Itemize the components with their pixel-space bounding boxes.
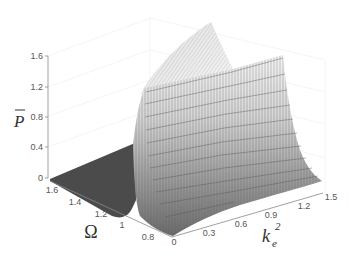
k-tick-0.6: 0.6	[235, 219, 248, 229]
k-axis-label: k e 2	[262, 220, 281, 249]
omega-tick-1.2: 1.2	[95, 209, 108, 219]
k-tick-1.5: 1.5	[325, 192, 338, 202]
z-tick-0.4: 0.4	[30, 142, 43, 152]
k-tick-1.2: 1.2	[298, 201, 311, 211]
k-tick-0.3: 0.3	[203, 228, 216, 238]
svg-text:P: P	[13, 112, 24, 131]
omega-axis-label: Ω	[84, 222, 97, 242]
z-tick-0.8: 0.8	[30, 112, 43, 122]
omega-tick-1.4: 1.4	[69, 197, 82, 207]
k-tick-0.9: 0.9	[265, 210, 278, 220]
omega-tick-1: 1	[119, 220, 124, 230]
z-axis-label: P	[13, 110, 25, 131]
svg-text:2: 2	[275, 220, 281, 232]
z-tick-1.6: 1.6	[30, 51, 43, 61]
surface-chart: 1.6 1.2 0.8 0.4 0 P 1.6 1.4 1.2 1 0	[0, 0, 349, 258]
z-tick-1.2: 1.2	[30, 82, 43, 92]
z-tick-0: 0	[38, 173, 43, 183]
omega-tick-1.6: 1.6	[46, 185, 59, 195]
svg-text:e: e	[272, 237, 277, 249]
k-tick-0: 0	[171, 237, 176, 247]
omega-tick-0.8: 0.8	[142, 232, 155, 242]
svg-text:k: k	[262, 226, 271, 246]
z-axis: 1.6 1.2 0.8 0.4 0	[30, 51, 48, 183]
